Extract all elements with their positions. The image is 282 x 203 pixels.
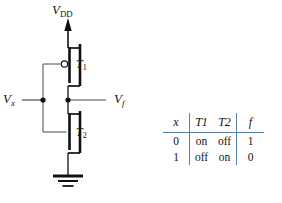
cmos-inverter-circuit bbox=[0, 0, 150, 203]
input-label: Vx bbox=[3, 92, 15, 105]
inversion-bubble-icon bbox=[61, 61, 67, 67]
transistor-t2-sub: 2 bbox=[83, 131, 87, 140]
output-label: Vf bbox=[114, 92, 124, 105]
input-net-vx bbox=[22, 64, 46, 132]
header-f-base: f bbox=[249, 115, 252, 129]
truth-table-header-row: x T1 T2 f bbox=[163, 113, 264, 133]
junction-dot-input bbox=[40, 97, 45, 102]
header-cell-x: x bbox=[163, 113, 190, 133]
output-label-base: V bbox=[114, 91, 122, 106]
pmos-transistor-t1 bbox=[43, 44, 80, 100]
header-t1-sub: 1 bbox=[202, 115, 208, 129]
supply-label-sub: DD bbox=[60, 9, 73, 19]
table-row: 0 on off 1 bbox=[163, 133, 264, 150]
cell-t1: on bbox=[190, 133, 214, 150]
nmos-transistor-t2 bbox=[43, 100, 80, 175]
transistor-t1-label: T1 bbox=[76, 58, 87, 70]
cell-x: 1 bbox=[163, 149, 190, 165]
transistor-t1-sub: 1 bbox=[83, 63, 87, 72]
input-label-base: V bbox=[3, 91, 11, 106]
supply-arrow-icon bbox=[64, 18, 71, 48]
header-x-base: x bbox=[173, 115, 178, 129]
cell-f: 0 bbox=[237, 149, 265, 165]
cell-f: 1 bbox=[237, 133, 265, 150]
supply-label: VDD bbox=[52, 3, 73, 16]
header-cell-t2: T2 bbox=[213, 113, 237, 133]
header-cell-f: f bbox=[237, 113, 265, 133]
truth-table: x T1 T2 f 0 on off 1 bbox=[163, 113, 273, 165]
truth-table-grid: x T1 T2 f 0 on off 1 bbox=[163, 113, 264, 165]
header-t1-base: T bbox=[195, 115, 202, 129]
transistor-t1-base: T bbox=[76, 57, 83, 71]
header-t2-sub: 2 bbox=[225, 115, 231, 129]
input-label-sub: x bbox=[11, 98, 15, 108]
cell-t1: off bbox=[190, 149, 214, 165]
transistor-t2-label: T2 bbox=[76, 126, 87, 138]
figure-root: VDD Vx Vf T1 T2 x T1 T2 bbox=[0, 0, 282, 203]
cell-t2: off bbox=[213, 133, 237, 150]
supply-label-base: V bbox=[52, 2, 60, 17]
header-cell-t1: T1 bbox=[190, 113, 214, 133]
transistor-t2-base: T bbox=[76, 125, 83, 139]
cell-x: 0 bbox=[163, 133, 190, 150]
cell-t2: on bbox=[213, 149, 237, 165]
header-t2-base: T bbox=[218, 115, 225, 129]
output-net-vf bbox=[65, 97, 106, 102]
ground-icon bbox=[53, 176, 83, 186]
junction-dot-output bbox=[65, 97, 70, 102]
table-row: 1 off on 0 bbox=[163, 149, 264, 165]
